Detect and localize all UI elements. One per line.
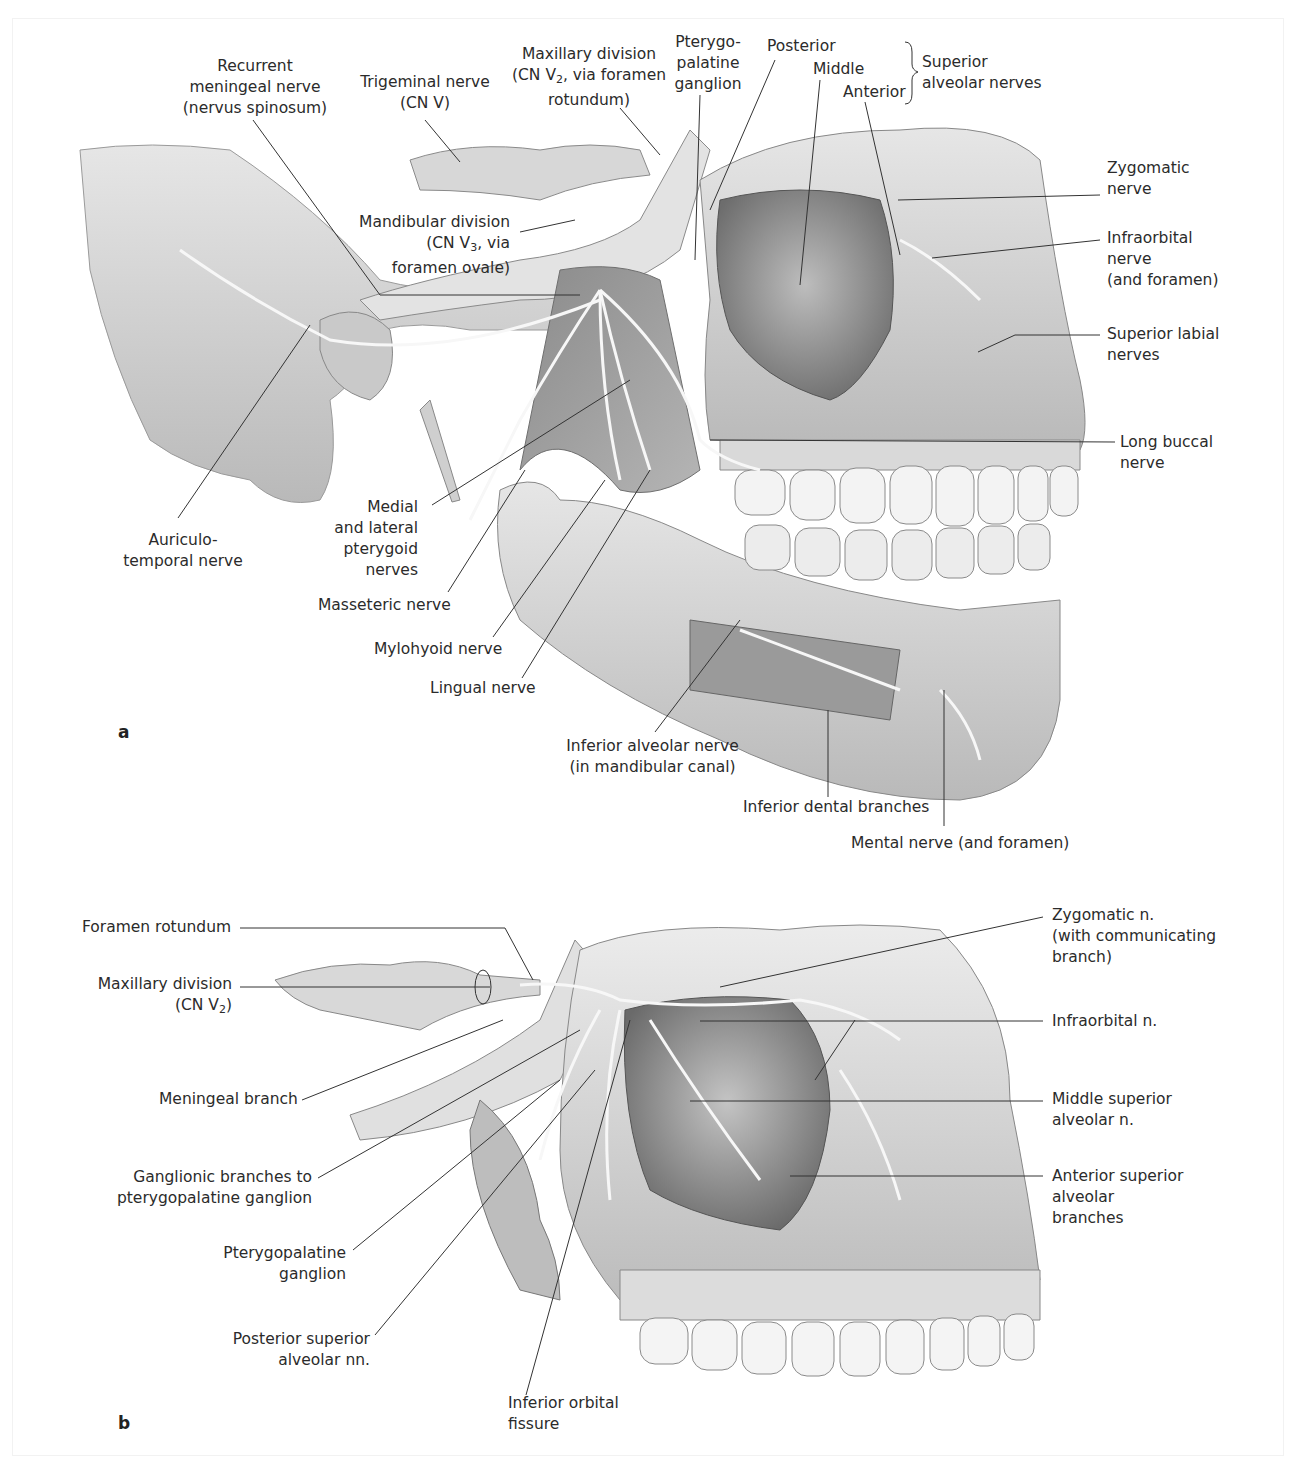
label-ganglionic-branches: Ganglionic branches to pterygopalatine g… bbox=[100, 1167, 312, 1209]
label-foramen-rotundum: Foramen rotundum bbox=[82, 917, 231, 938]
label-maxillary-division-b: Maxillary division (CN V2) bbox=[80, 974, 232, 1020]
label-mental-nerve: Mental nerve (and foramen) bbox=[851, 833, 1069, 854]
label-anterior-superior-alveolar-branches: Anterior superior alveolar branches bbox=[1052, 1166, 1183, 1229]
label-inferior-alveolar-nerve: Inferior alveolar nerve (in mandibular c… bbox=[565, 736, 740, 778]
label-pterygopalatine-ganglion-b: Pterygopalatine ganglion bbox=[200, 1243, 346, 1285]
label-medial-lateral-pterygoid-nerves: Medial and lateral pterygoid nerves bbox=[320, 497, 418, 581]
label-middle-superior-alveolar: Middle bbox=[813, 59, 864, 80]
label-superior-labial-nerves: Superior labial nerves bbox=[1107, 324, 1219, 366]
label-recurrent-meningeal-nerve: Recurrent meningeal nerve (nervus spinos… bbox=[180, 56, 330, 119]
label-mylohyoid-nerve: Mylohyoid nerve bbox=[374, 639, 502, 660]
label-anterior-superior-alveolar: Anterior bbox=[843, 82, 906, 103]
label-inferior-dental-branches: Inferior dental branches bbox=[743, 797, 929, 818]
label-superior-alveolar-nerves-group: Superior alveolar nerves bbox=[922, 52, 1042, 94]
label-posterior-superior-alveolar: Posterior bbox=[767, 36, 836, 57]
label-meningeal-branch: Meningeal branch bbox=[159, 1089, 298, 1110]
label-infraorbital-nerve: Infraorbital nerve (and foramen) bbox=[1107, 228, 1218, 291]
label-lingual-nerve: Lingual nerve bbox=[430, 678, 536, 699]
label-long-buccal-nerve: Long buccal nerve bbox=[1120, 432, 1213, 474]
label-trigeminal-nerve: Trigeminal nerve (CN V) bbox=[360, 72, 490, 114]
label-middle-superior-alveolar-n: Middle superior alveolar n. bbox=[1052, 1089, 1172, 1131]
label-maxillary-division: Maxillary division (CN V2, via foramen r… bbox=[506, 44, 672, 111]
label-auriculotemporal-nerve: Auriculo- temporal nerve bbox=[118, 530, 248, 572]
label-inferior-orbital-fissure: Inferior orbital fissure bbox=[508, 1393, 619, 1435]
label-zygomatic-n: Zygomatic n. (with communicating branch) bbox=[1052, 905, 1216, 968]
panel-a-letter: a bbox=[118, 722, 129, 742]
label-posterior-superior-alveolar-nn: Posterior superior alveolar nn. bbox=[220, 1329, 370, 1371]
label-mandibular-division: Mandibular division (CN V3, via foramen … bbox=[340, 212, 510, 279]
label-masseteric-nerve: Masseteric nerve bbox=[318, 595, 451, 616]
label-zygomatic-nerve: Zygomatic nerve bbox=[1107, 158, 1190, 200]
label-infraorbital-n: Infraorbital n. bbox=[1052, 1011, 1157, 1032]
panel-b-letter: b bbox=[118, 1413, 130, 1433]
label-pterygopalatine-ganglion: Pterygo- palatine ganglion bbox=[670, 32, 746, 95]
